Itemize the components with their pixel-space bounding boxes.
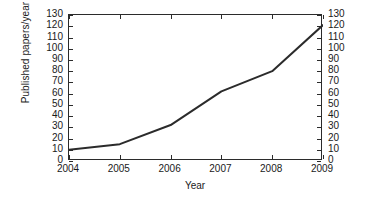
x-tick-mark-top — [69, 15, 70, 19]
x-tick-mark-top — [120, 15, 121, 19]
y-axis-tick-labels-right: 0102030405060708090100110120130 — [328, 0, 354, 219]
x-axis-label: Year — [68, 180, 322, 191]
y-tick-mark-left — [69, 116, 73, 117]
y-axis-tick-labels-left: 0102030405060708090100110120130 — [37, 0, 63, 219]
data-line-svg — [69, 15, 323, 161]
x-tick-mark-top — [272, 15, 273, 19]
x-tick-mark-bottom — [323, 155, 324, 159]
y-tick-label-left: 50 — [52, 99, 63, 109]
y-tick-mark-left — [69, 71, 73, 72]
y-tick-mark-left — [69, 82, 73, 83]
y-tick-label-left: 110 — [47, 32, 63, 42]
y-tick-mark-right — [317, 161, 321, 162]
y-tick-label-right: 70 — [328, 76, 339, 86]
y-tick-mark-right — [317, 116, 321, 117]
y-tick-label-right: 90 — [328, 54, 339, 64]
y-tick-mark-left — [69, 60, 73, 61]
y-tick-mark-right — [317, 15, 321, 16]
y-tick-mark-right — [317, 71, 321, 72]
y-tick-label-left: 70 — [52, 76, 63, 86]
x-tick-label: 2006 — [148, 163, 192, 175]
y-tick-label-left: 40 — [52, 110, 63, 120]
x-tick-mark-top — [221, 15, 222, 19]
x-tick-label: 2009 — [300, 163, 344, 175]
x-tick-mark-bottom — [69, 155, 70, 159]
y-tick-label-right: 110 — [328, 32, 344, 42]
y-tick-mark-left — [69, 94, 73, 95]
y-tick-label-left: 80 — [52, 65, 63, 75]
y-axis-label: Published papers/year — [20, 0, 31, 133]
y-tick-label-right: 120 — [328, 20, 345, 30]
y-tick-label-left: 10 — [52, 144, 63, 154]
y-tick-mark-right — [317, 150, 321, 151]
y-tick-mark-right — [317, 26, 321, 27]
y-tick-label-right: 20 — [328, 133, 339, 143]
x-tick-label: 2008 — [249, 163, 293, 175]
line-chart-figure: Published papers/year 010203040506070809… — [0, 0, 377, 219]
y-tick-label-left: 120 — [46, 20, 63, 30]
x-tick-label: 2005 — [97, 163, 141, 175]
x-axis-tick-labels: 200420052006200720082009 — [68, 163, 322, 177]
y-tick-mark-right — [317, 139, 321, 140]
y-tick-mark-right — [317, 127, 321, 128]
y-tick-mark-right — [317, 60, 321, 61]
x-tick-mark-bottom — [120, 155, 121, 159]
y-tick-label-left: 130 — [46, 9, 63, 19]
y-tick-label-right: 60 — [328, 88, 339, 98]
y-tick-label-left: 60 — [52, 88, 63, 98]
series-published-papers — [69, 25, 323, 150]
plot-area — [68, 14, 322, 160]
y-tick-mark-left — [69, 161, 73, 162]
y-tick-mark-left — [69, 26, 73, 27]
y-tick-mark-left — [69, 127, 73, 128]
y-tick-mark-right — [317, 38, 321, 39]
y-tick-label-left: 30 — [52, 121, 63, 131]
y-tick-label-right: 40 — [328, 110, 339, 120]
y-tick-label-right: 130 — [328, 9, 345, 19]
x-tick-mark-top — [171, 15, 172, 19]
y-tick-mark-right — [317, 49, 321, 50]
y-tick-mark-right — [317, 82, 321, 83]
y-tick-mark-left — [69, 49, 73, 50]
y-tick-label-right: 50 — [328, 99, 339, 109]
x-tick-label: 2007 — [198, 163, 242, 175]
y-tick-mark-right — [317, 94, 321, 95]
x-tick-mark-bottom — [272, 155, 273, 159]
y-tick-mark-right — [317, 105, 321, 106]
y-tick-label-right: 80 — [328, 65, 339, 75]
y-tick-label-right: 10 — [328, 144, 339, 154]
y-tick-label-right: 30 — [328, 121, 339, 131]
y-tick-mark-left — [69, 139, 73, 140]
y-tick-label-right: 100 — [328, 43, 345, 53]
y-tick-mark-left — [69, 38, 73, 39]
y-tick-mark-left — [69, 105, 73, 106]
y-tick-label-left: 100 — [46, 43, 63, 53]
x-tick-label: 2004 — [46, 163, 90, 175]
x-tick-mark-bottom — [221, 155, 222, 159]
y-tick-label-left: 90 — [52, 54, 63, 64]
x-tick-mark-top — [323, 15, 324, 19]
y-tick-mark-left — [69, 150, 73, 151]
x-tick-mark-bottom — [171, 155, 172, 159]
y-tick-label-left: 20 — [52, 133, 63, 143]
